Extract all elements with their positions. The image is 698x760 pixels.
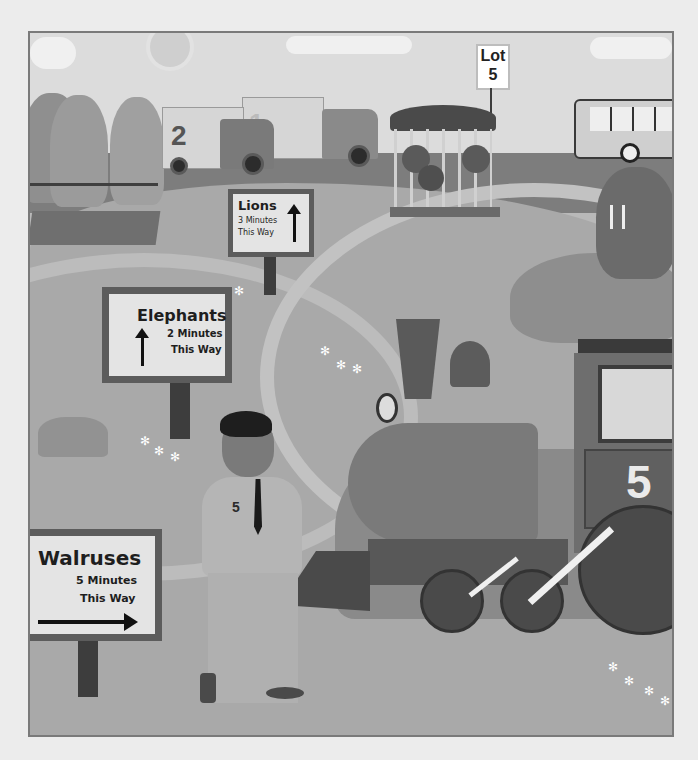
boy-shoe — [200, 673, 216, 703]
elephant-platform — [28, 211, 160, 245]
elephants-sign: Elephants 2 Minutes This Way — [102, 287, 232, 383]
lions-sign: Lions 3 Minutes This Way — [228, 189, 314, 257]
lions-sign-direction: This Way — [238, 228, 274, 237]
boy-hair — [220, 411, 272, 437]
train-number: 5 — [626, 455, 652, 509]
elephants-sign-title: Elephants — [137, 306, 226, 325]
lot-sign: Lot 5 — [476, 44, 510, 90]
flower-icon: ✻ — [320, 345, 330, 357]
cloud — [590, 37, 672, 59]
flower-icon: ✻ — [352, 363, 362, 375]
elephants-sign-direction: This Way — [171, 344, 221, 355]
train-headlamp — [376, 393, 398, 423]
scene-frame: 1 2 Lot 5 Lions 3 Minutes This Way Eleph… — [28, 31, 674, 737]
lions-sign-post — [264, 257, 276, 295]
truck-number: 2 — [171, 120, 187, 152]
flower-icon: ✻ — [660, 695, 670, 707]
walrus-tusk — [610, 205, 613, 229]
grass-tuft — [38, 417, 108, 457]
boy-tie — [254, 479, 262, 535]
elephants-sign-time: 2 Minutes — [167, 328, 223, 339]
rope-barrier — [30, 183, 158, 186]
wheel — [620, 143, 640, 163]
flower-icon: ✻ — [624, 675, 634, 687]
walrus — [596, 167, 674, 279]
wheel — [348, 145, 370, 167]
cloud — [286, 36, 412, 54]
lot-sign-line2: 5 — [478, 65, 508, 84]
walruses-sign-title: Walruses — [38, 546, 141, 570]
boy-shirt-number: 5 — [232, 499, 240, 515]
walruses-sign-post — [78, 641, 98, 697]
lions-sign-title: Lions — [238, 198, 277, 213]
boy-shirt: 5 — [202, 477, 302, 577]
boy-head — [222, 419, 274, 477]
flower-icon: ✻ — [234, 285, 244, 297]
walruses-sign-direction: This Way — [80, 592, 135, 605]
train-boiler — [348, 423, 538, 543]
boy-trousers — [208, 573, 298, 703]
elephants-sign-post — [170, 383, 190, 439]
flower-icon: ✻ — [140, 435, 150, 447]
lions-sign-time: 3 Minutes — [238, 216, 277, 225]
elephant — [50, 95, 108, 207]
walruses-sign-time: 5 Minutes — [76, 574, 137, 587]
arrow-up-icon — [293, 212, 296, 242]
walruses-sign: Walruses 5 Minutes This Way — [30, 529, 162, 641]
flower-icon: ✻ — [336, 359, 346, 371]
train-cab-window — [598, 365, 674, 443]
wheel — [170, 157, 188, 175]
elephant — [110, 97, 164, 205]
cage-base — [390, 207, 500, 217]
lot-sign-line1: Lot — [478, 46, 508, 65]
cloud — [30, 37, 76, 69]
flower-icon: ✻ — [170, 451, 180, 463]
arrow-right-icon — [38, 620, 126, 624]
bus-windows — [590, 107, 674, 131]
lion — [462, 145, 490, 173]
train-wheel — [420, 569, 484, 633]
boy-shoe — [266, 687, 304, 699]
lion — [418, 165, 444, 191]
cage-roof — [390, 105, 496, 131]
wheel — [242, 153, 264, 175]
flower-icon: ✻ — [644, 685, 654, 697]
flower-icon: ✻ — [608, 661, 618, 673]
flower-icon: ✻ — [154, 445, 164, 457]
train-dome — [450, 341, 490, 387]
walrus-tusk — [622, 205, 625, 229]
arrow-up-icon — [141, 336, 144, 366]
